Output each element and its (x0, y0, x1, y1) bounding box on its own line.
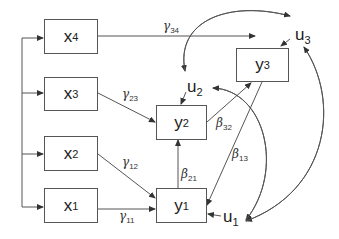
node-subscript: 3 (72, 88, 78, 100)
coef-symbol: β (216, 116, 223, 130)
node-label: y (174, 113, 183, 133)
node-subscript: 2 (196, 86, 202, 98)
node-x2: x2 (44, 136, 98, 171)
coef-subscript: 13 (239, 154, 248, 163)
disturbance-u1: u1 (223, 208, 239, 228)
node-y3: y3 (236, 48, 289, 82)
disturbance-u3: u3 (295, 26, 311, 46)
node-subscript: 1 (183, 200, 189, 212)
coef-beta-32: β32 (216, 117, 232, 132)
node-subscript: 2 (72, 148, 78, 160)
node-subscript: 4 (72, 31, 78, 43)
node-label: y (255, 55, 264, 75)
node-label: y (174, 196, 183, 216)
coef-symbol: β (181, 167, 188, 181)
coef-beta-13: β13 (232, 148, 248, 163)
coef-gamma-12: γ12 (122, 156, 138, 171)
coef-subscript: 12 (129, 162, 138, 171)
node-label: x (64, 84, 73, 104)
coef-subscript: 32 (223, 123, 232, 132)
node-label: x (64, 144, 73, 164)
coef-subscript: 21 (188, 174, 197, 183)
path-diagram: x4 x3 x2 x1 y1 y2 y3 u1 u2 u3 γ34 γ23 γ1… (0, 0, 339, 239)
node-subscript: 1 (72, 200, 78, 212)
node-y1: y1 (156, 188, 207, 223)
coef-beta-21: β21 (181, 168, 197, 183)
node-subscript: 2 (183, 117, 189, 129)
node-x4: x4 (44, 19, 98, 54)
coef-gamma-11: γ11 (119, 210, 134, 225)
disturbance-u2: u2 (187, 78, 203, 98)
coef-gamma-23: γ23 (122, 88, 138, 103)
node-label: x (64, 196, 73, 216)
node-x1: x1 (44, 188, 98, 223)
node-x3: x3 (44, 77, 98, 111)
path-b13 (207, 82, 262, 205)
coef-subscript: 11 (126, 216, 134, 225)
coef-subscript: 34 (170, 26, 179, 35)
coef-gamma-34: γ34 (163, 20, 179, 35)
node-y2: y2 (156, 105, 207, 140)
node-subscript: 3 (304, 34, 310, 46)
node-subscript: 3 (264, 59, 270, 71)
coef-subscript: 23 (129, 94, 138, 103)
node-subscript: 1 (232, 216, 238, 228)
coef-symbol: β (232, 147, 239, 161)
node-label: x (64, 27, 73, 47)
